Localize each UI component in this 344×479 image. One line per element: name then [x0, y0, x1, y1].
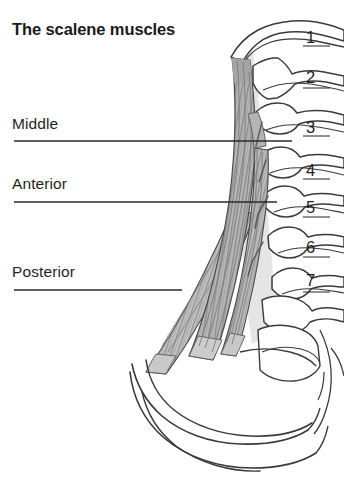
second-rib [130, 372, 316, 468]
rib-neck-line [318, 372, 324, 400]
middle-scalene-origin-shade [232, 58, 252, 84]
illustration-root [14, 21, 344, 471]
vertebra-number-1: 1 [306, 28, 315, 47]
vertebra-number-2: 2 [306, 68, 315, 87]
label-anterior-scalene: Anterior [12, 175, 67, 193]
vertebra-2-process [253, 58, 344, 99]
vertebra-number-4: 4 [306, 161, 315, 180]
posterior-scalene-insertion-shade [146, 354, 176, 374]
rib-tubercle-upper [308, 408, 320, 430]
middle-scalene-insertion-shade [189, 336, 222, 360]
vertebra-number-3: 3 [306, 118, 315, 137]
vertebra-4-process [260, 147, 344, 178]
figure-panel: The scalene muscles Middle Anterior Post… [0, 0, 344, 479]
vertebra-number-7: 7 [306, 271, 315, 290]
anterior-scalene-insertion-shade [221, 333, 245, 356]
vertebra-number-6: 6 [306, 238, 315, 257]
page-title: The scalene muscles [12, 20, 175, 39]
label-middle-scalene: Middle [12, 115, 58, 133]
label-posterior-scalene: Posterior [12, 263, 75, 281]
vertebra-number-5: 5 [306, 198, 315, 217]
scalene-muscles-illustration [0, 0, 344, 479]
spinal-column-edge-far-right [331, 348, 344, 376]
rib-tubercle-lower [316, 426, 328, 453]
